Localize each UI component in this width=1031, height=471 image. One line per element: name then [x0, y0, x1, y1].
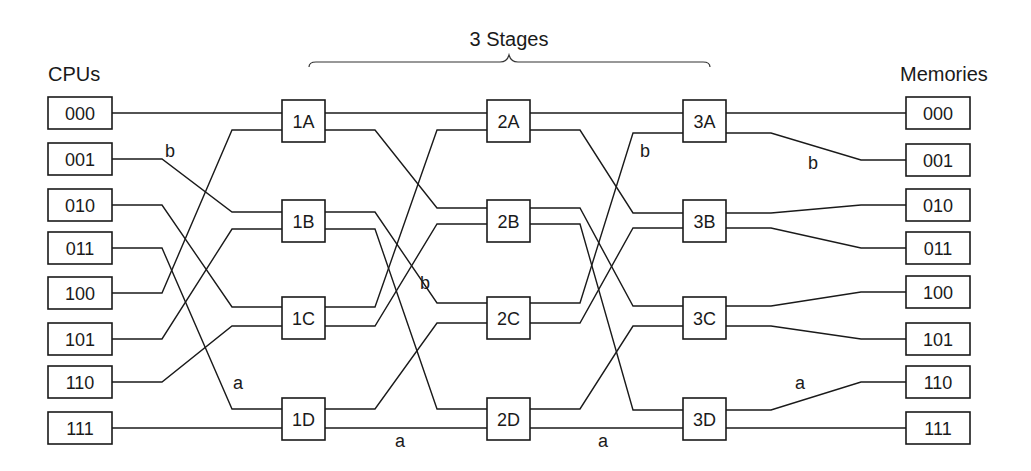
switch-2A: 2A	[487, 100, 530, 142]
cpu-label: 010	[65, 196, 95, 216]
brace-icon	[309, 55, 710, 67]
memory-111: 111	[906, 412, 970, 444]
memory-100: 100	[906, 276, 970, 308]
wire-cpu-011	[112, 248, 282, 409]
cpus-header: CPUs	[48, 63, 100, 85]
path-label-a: a	[598, 431, 609, 451]
wire-mem-011	[726, 228, 906, 248]
wire-2C-3A	[530, 133, 683, 303]
memory-label: 000	[923, 104, 953, 124]
wire-1C-2B	[325, 224, 487, 326]
stages-title: 3 Stages	[470, 28, 549, 50]
wire-mem-100	[726, 292, 906, 306]
memory-label: 100	[923, 283, 953, 303]
cpu-011: 011	[48, 232, 112, 264]
wire-2C-3B	[530, 228, 683, 323]
cpu-label: 100	[65, 284, 95, 304]
switch-label: 2D	[497, 410, 520, 430]
switch-label: 2C	[497, 309, 520, 329]
memory-label: 010	[923, 196, 953, 216]
wire-1B-2D	[325, 229, 487, 409]
cpu-100: 100	[48, 277, 112, 309]
wire-1A-2B	[325, 130, 487, 208]
switch-label: 2B	[497, 212, 519, 232]
switch-label: 1C	[292, 309, 315, 329]
cpu-column: 000001010011100101110111	[48, 97, 112, 444]
path-label-b: b	[808, 153, 818, 173]
path-label-b: b	[165, 141, 175, 161]
memories-header: Memories	[900, 63, 988, 85]
path-label-a: a	[795, 373, 806, 393]
switch-label: 1B	[292, 212, 314, 232]
cpu-110: 110	[48, 366, 112, 398]
switch-label: 3C	[693, 309, 716, 329]
switch-3D: 3D	[683, 398, 726, 440]
switch-3B: 3B	[683, 200, 726, 242]
memory-101: 101	[906, 323, 970, 355]
path-label-b: b	[640, 141, 650, 161]
wire-1C-2A	[325, 130, 487, 307]
wire-1D-2C	[325, 323, 487, 409]
memory-label: 111	[924, 419, 951, 439]
cpu-label: 101	[65, 330, 95, 350]
switch-3A: 3A	[683, 100, 726, 142]
switch-label: 2A	[497, 112, 519, 132]
switch-2D: 2D	[487, 398, 530, 440]
switch-3C: 3C	[683, 297, 726, 339]
cpu-label: 111	[66, 419, 93, 439]
cpu-label: 011	[66, 239, 95, 259]
path-label-b: b	[420, 273, 430, 293]
cpu-label: 001	[65, 150, 95, 170]
switch-label: 1D	[292, 410, 315, 430]
cpu-label: 110	[66, 373, 95, 393]
cpu-010: 010	[48, 189, 112, 221]
wire-2B-3D	[530, 224, 683, 410]
wire-cpu-101	[112, 229, 282, 339]
wire-mem-010	[726, 205, 906, 213]
switch-1D: 1D	[282, 398, 325, 440]
switch-1A: 1A	[282, 100, 325, 142]
cpu-000: 000	[48, 97, 112, 129]
wire-2A-3B	[530, 130, 683, 213]
cpu-001: 001	[48, 143, 112, 175]
path-label-a: a	[233, 373, 244, 393]
memory-label: 001	[923, 151, 953, 171]
switch-2C: 2C	[487, 297, 530, 339]
memory-110: 110	[906, 366, 970, 398]
memory-010: 010	[906, 189, 970, 221]
wire-mem-110	[726, 382, 906, 410]
switch-label: 3B	[693, 212, 715, 232]
wire-mem-101	[726, 326, 906, 339]
wire-cpu-010	[112, 205, 282, 307]
switch-1B: 1B	[282, 200, 325, 242]
switch-1C: 1C	[282, 297, 325, 339]
cpu-111: 111	[48, 412, 112, 444]
omega-network-diagram: 3 Stages CPUs Memories 00000101001110010…	[0, 0, 1031, 471]
memory-label: 101	[923, 330, 953, 350]
cpu-label: 000	[65, 104, 95, 124]
wire-cpu-001	[112, 159, 282, 212]
switch-2B: 2B	[487, 200, 530, 242]
wire-1B-2C	[325, 212, 487, 303]
cpu-101: 101	[48, 323, 112, 355]
wire-2D-3C	[530, 326, 683, 409]
switch-stages: 1A1B1C1D2A2B2C2D3A3B3C3D	[282, 100, 726, 440]
memory-001: 001	[906, 144, 970, 176]
switch-label: 3D	[693, 410, 716, 430]
memory-column: 000001010011100101110111	[906, 97, 970, 444]
wire-2B-3C	[530, 208, 683, 306]
memory-000: 000	[906, 97, 970, 129]
memory-011: 011	[906, 232, 970, 264]
stages-brace: 3 Stages	[309, 28, 710, 67]
switch-label: 3A	[693, 112, 715, 132]
switch-label: 1A	[292, 112, 314, 132]
memory-label: 110	[924, 373, 953, 393]
wire-cpu-110	[112, 326, 282, 382]
memory-label: 011	[924, 239, 953, 259]
path-label-a: a	[395, 431, 406, 451]
wires	[112, 113, 906, 428]
